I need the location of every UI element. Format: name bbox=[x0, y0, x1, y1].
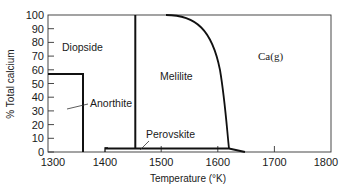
x-tick-1800: 1800 bbox=[314, 156, 338, 168]
x-tick-1300: 1300 bbox=[41, 156, 65, 168]
y-tick-60: 60 bbox=[32, 64, 44, 76]
x-axis-title: Temperature (°K) bbox=[150, 173, 226, 184]
x-axis-tick-labels: 1300 1400 1500 1600 1700 1800 bbox=[41, 156, 338, 168]
y-tick-20: 20 bbox=[32, 119, 44, 131]
phase-diagram: 0 10 20 30 40 50 60 70 80 90 100 1300 14… bbox=[0, 0, 345, 192]
y-tick-50: 50 bbox=[32, 78, 44, 90]
region-label-perovskite: Perovskite bbox=[146, 128, 195, 140]
y-tick-80: 80 bbox=[32, 36, 44, 48]
y-tick-70: 70 bbox=[32, 50, 44, 62]
region-label-anorthite: Anorthite bbox=[90, 97, 132, 109]
region-label-ca-gas: Ca(g) bbox=[258, 50, 283, 63]
region-label-diopside: Diopside bbox=[62, 41, 103, 53]
anorthite-boundary-line bbox=[48, 74, 83, 152]
y-tick-40: 40 bbox=[32, 91, 44, 103]
y-axis-ticks bbox=[48, 29, 54, 152]
y-tick-30: 30 bbox=[32, 105, 44, 117]
y-tick-100: 100 bbox=[26, 9, 44, 21]
y-axis-title: % Total calcium bbox=[5, 49, 16, 118]
x-tick-1600: 1600 bbox=[206, 156, 230, 168]
x-tick-1500: 1500 bbox=[149, 156, 173, 168]
perovskite-band-line bbox=[105, 149, 245, 153]
region-label-melilite: Melilite bbox=[160, 70, 193, 82]
anorthite-leader-line bbox=[67, 104, 88, 109]
x-tick-1700: 1700 bbox=[262, 156, 286, 168]
x-tick-1400: 1400 bbox=[93, 156, 117, 168]
y-tick-10: 10 bbox=[32, 132, 44, 144]
y-axis-tick-labels: 0 10 20 30 40 50 60 70 80 90 100 bbox=[26, 9, 44, 158]
y-tick-90: 90 bbox=[32, 23, 44, 35]
